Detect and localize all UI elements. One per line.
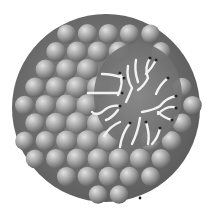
lipid-head-sphere: [56, 95, 77, 116]
lipid-head-sphere: [56, 131, 77, 152]
lipid-head-sphere: [67, 42, 87, 62]
lipid-head-sphere: [88, 148, 109, 169]
lipid-head-sphere: [46, 42, 65, 61]
lipid-head-sphere: [110, 185, 129, 204]
micelle-illustration: [0, 0, 215, 220]
lipid-head-sphere: [77, 59, 98, 80]
lipid-head-sphere: [57, 24, 76, 43]
lipid-head-sphere: [15, 132, 34, 151]
lipid-head-sphere: [56, 59, 77, 80]
lipid-head-sphere: [57, 167, 76, 186]
lipid-head-sphere: [130, 149, 150, 169]
lipid-head-sphere: [67, 149, 87, 169]
lipid-head-sphere: [46, 77, 67, 98]
lipid-head-sphere: [25, 113, 45, 133]
lipid-head-sphere: [36, 131, 56, 151]
lipid-head-sphere: [109, 148, 130, 169]
lipid-head-sphere: [120, 24, 139, 43]
lipid-head-sphere: [99, 24, 119, 44]
lipid-head-sphere: [141, 25, 160, 44]
lipid-head-sphere: [89, 185, 108, 204]
lipid-head-sphere: [25, 78, 45, 98]
lipid-head-sphere: [151, 149, 170, 168]
lipid-head-sphere: [88, 41, 109, 62]
lipid-head-sphere: [36, 60, 56, 80]
lipid-head-sphere: [15, 96, 34, 115]
lipid-head-sphere: [46, 149, 66, 169]
lipid-head-sphere: [141, 167, 160, 186]
lipid-head-sphere: [46, 113, 67, 134]
lipid-head-sphere: [78, 24, 97, 43]
lipid-head-sphere: [26, 150, 45, 169]
lipid-head-sphere: [120, 167, 140, 187]
lipid-head-sphere: [99, 167, 119, 187]
lipid-head-sphere: [35, 95, 55, 115]
lipid-head-sphere: [78, 167, 98, 187]
lipid-head-sphere: [77, 130, 98, 151]
lipid-head-sphere: [183, 96, 202, 115]
